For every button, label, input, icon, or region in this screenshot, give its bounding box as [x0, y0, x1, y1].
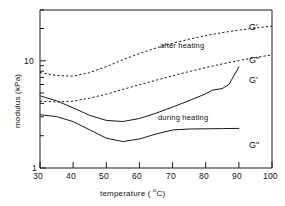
y-axis-title: modulus (kPa) [13, 74, 22, 128]
x-tick-label-80: 80 [199, 171, 209, 181]
curve-label-during-heating-g-double-prime: G" [249, 140, 259, 150]
y-tick-label-1: 1 [32, 163, 37, 173]
x-axis-ticks [40, 162, 272, 168]
x-tick-label-40: 40 [66, 171, 76, 181]
y-tick-label-10: 10 [24, 56, 34, 66]
annotation-during-heating: during heating [158, 113, 208, 122]
x-tick-label-50: 50 [99, 171, 109, 181]
series-line-after-heating-g-prime [40, 26, 272, 76]
x-tick-label-100: 100 [263, 171, 278, 181]
series-line-during-heating-g-prime [40, 67, 239, 122]
curve-label-during-heating-g-prime: G' [249, 75, 258, 85]
x-tick-label-70: 70 [166, 171, 176, 181]
x-tick-label-60: 60 [132, 171, 142, 181]
plot-frame [40, 10, 272, 168]
series-line-after-heating-g-double-prime [40, 55, 272, 102]
curve-label-after-heating-g-prime: G' [249, 22, 258, 32]
x-axis-title: temperature ( oC) [100, 187, 165, 198]
x-tick-label-90: 90 [232, 171, 242, 181]
x-axis-title-unit: C) [157, 189, 166, 198]
x-axis-title-main: temperature ( [100, 189, 153, 198]
y-axis-ticks [40, 10, 46, 168]
figure-container: 30 40 50 60 70 80 90 100 10 1 modulus (k… [0, 0, 285, 206]
curve-label-after-heating-g-double-prime: G" [249, 55, 259, 65]
annotation-after-heating: after heating [160, 41, 204, 50]
